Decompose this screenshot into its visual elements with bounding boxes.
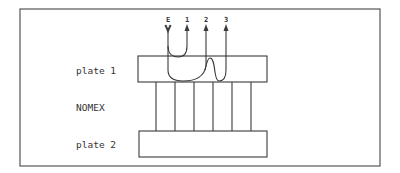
plate2-label: plate 2 bbox=[76, 139, 116, 150]
terminal-1-label: 1 bbox=[185, 16, 189, 24]
plate1-label: plate 1 bbox=[76, 65, 116, 76]
plate-2 bbox=[139, 131, 267, 157]
terminal-2-label: 2 bbox=[204, 16, 208, 24]
terminal-3-arrow-icon bbox=[224, 24, 229, 31]
wire-2-to-3 bbox=[205, 28, 226, 81]
wire-e-to-1 bbox=[168, 28, 187, 57]
outer-frame bbox=[20, 9, 380, 166]
nomex-label: NOMEX bbox=[76, 102, 105, 113]
plate-1 bbox=[138, 56, 267, 82]
diagram-canvas: plate 1 NOMEX plate 2 E 1 2 3 bbox=[0, 0, 400, 173]
terminal-1-arrow-icon bbox=[185, 24, 190, 31]
terminal-2-arrow-icon bbox=[204, 24, 209, 31]
nomex-strands bbox=[156, 82, 251, 131]
terminal-e-label: E bbox=[166, 16, 170, 24]
terminal-3-label: 3 bbox=[224, 16, 228, 24]
